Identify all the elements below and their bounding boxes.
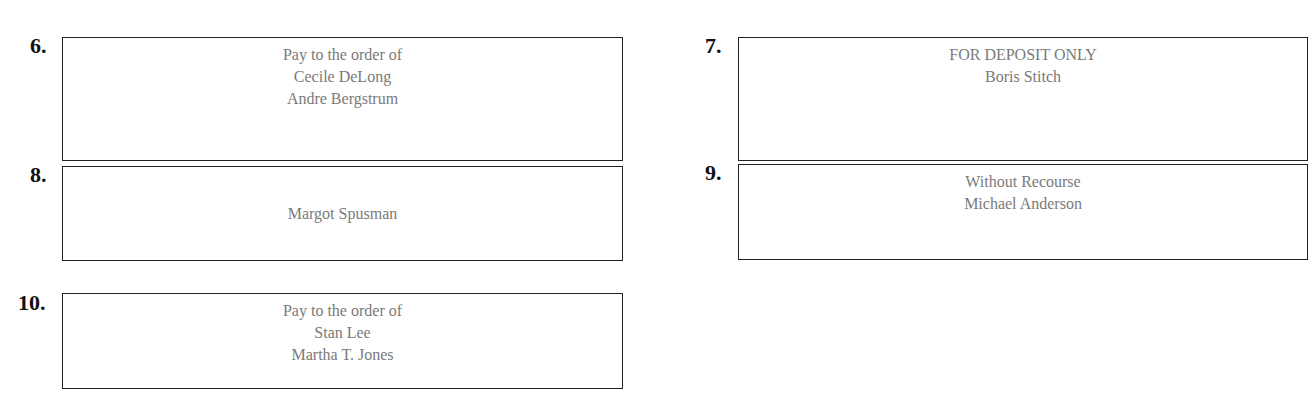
endorsement-box-7: FOR DEPOSIT ONLY Boris Stitch — [738, 37, 1308, 161]
item-number-6: 6. — [30, 33, 47, 59]
item-number-9: 9. — [705, 160, 722, 186]
endorsement-line: FOR DEPOSIT ONLY — [739, 44, 1307, 66]
item-number-8: 8. — [30, 162, 47, 188]
endorsement-box-6: Pay to the order of Cecile DeLong Andre … — [62, 37, 623, 161]
endorsement-box-8: Margot Spusman — [62, 166, 623, 261]
endorsement-line: Pay to the order of — [63, 44, 622, 66]
endorsement-line: Martha T. Jones — [63, 344, 622, 366]
endorsement-line: Andre Bergstrum — [63, 88, 622, 110]
endorsement-line: Stan Lee — [63, 322, 622, 344]
endorsement-line: Boris Stitch — [739, 66, 1307, 88]
endorsement-line: Cecile DeLong — [63, 66, 622, 88]
item-number-10: 10. — [18, 290, 46, 316]
endorsement-line: Michael Anderson — [739, 193, 1307, 215]
endorsement-line: Without Recourse — [739, 171, 1307, 193]
endorsement-line: Pay to the order of — [63, 300, 622, 322]
item-number-7: 7. — [705, 33, 722, 59]
endorsement-box-9: Without Recourse Michael Anderson — [738, 164, 1308, 260]
endorsement-box-10: Pay to the order of Stan Lee Martha T. J… — [62, 293, 623, 389]
endorsement-line: Margot Spusman — [63, 203, 622, 225]
